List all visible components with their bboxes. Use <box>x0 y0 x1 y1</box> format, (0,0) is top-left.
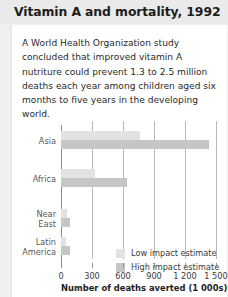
tick-mark <box>185 263 186 268</box>
legend-swatch-low-icon <box>116 249 125 258</box>
tick-label: 300 <box>84 271 100 281</box>
tick-label: 0 <box>58 271 63 281</box>
bar-high-impact <box>61 140 209 149</box>
bar-high-impact <box>61 218 70 227</box>
tick-label: 1 200 <box>173 271 196 281</box>
category-label: Asia <box>39 136 56 146</box>
legend-label-low: Low impact estimate <box>131 248 217 258</box>
bar-group: Asia <box>61 131 216 153</box>
tick-label: 600 <box>115 271 131 281</box>
bar-chart: AsiaAfricaNear EastLatin America Low imp… <box>12 121 228 297</box>
category-label: Latin America <box>22 237 56 257</box>
figure-card: A World Health Organization study conclu… <box>11 24 227 297</box>
tick-mark <box>92 263 93 268</box>
tick-label: 1 500 <box>204 271 227 281</box>
page-title: Vitamin A and mortality, 1992 <box>14 4 224 19</box>
tick-mark <box>123 263 124 268</box>
bar-low-impact <box>61 169 95 178</box>
x-axis-title: Number of deaths averted (1 000s) <box>61 283 216 293</box>
bar-low-impact <box>61 237 66 246</box>
body-paragraph: A World Health Organization study conclu… <box>22 36 218 122</box>
tick-mark <box>216 263 217 268</box>
tick-mark <box>154 263 155 268</box>
category-label: Near East <box>36 209 56 229</box>
tick-label: 900 <box>146 271 162 281</box>
legend-item-low: Low impact estimate <box>116 247 219 259</box>
bar-group: Near East <box>61 209 216 231</box>
category-label: Africa <box>33 174 56 184</box>
tick-mark <box>61 263 62 268</box>
bar-high-impact <box>61 178 127 187</box>
bar-low-impact <box>61 131 140 140</box>
bar-group: Africa <box>61 169 216 191</box>
chart-figure-page: Vitamin A and mortality, 1992 A World He… <box>0 0 228 297</box>
gridline <box>216 121 217 259</box>
bar-low-impact <box>61 209 67 218</box>
plot-area: AsiaAfricaNear EastLatin America <box>61 125 216 263</box>
bar-high-impact <box>61 246 70 255</box>
